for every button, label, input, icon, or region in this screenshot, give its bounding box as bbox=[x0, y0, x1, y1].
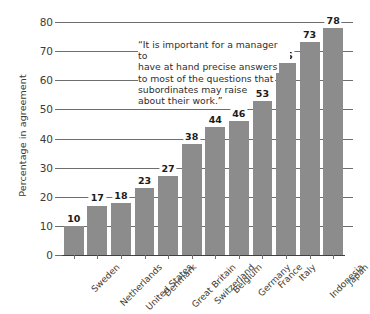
bar[interactable] bbox=[323, 28, 343, 255]
bar[interactable] bbox=[229, 121, 249, 255]
bar-value-label: 46 bbox=[230, 108, 247, 119]
y-axis-tick-label: 10 bbox=[40, 220, 53, 232]
quote-line: “It is important for a manager to bbox=[138, 39, 290, 61]
x-axis-tick-label: Japan bbox=[346, 262, 370, 287]
bar[interactable] bbox=[205, 127, 225, 255]
quote-line: have at hand precise answers bbox=[138, 61, 279, 72]
y-axis-tick-label: 40 bbox=[40, 133, 53, 145]
y-axis-tick-mark bbox=[55, 139, 62, 140]
y-axis-title: Percentage in agreement bbox=[17, 46, 28, 226]
y-axis-tick-mark-right bbox=[345, 22, 353, 23]
x-axis-tick-mark bbox=[97, 255, 98, 259]
bar[interactable] bbox=[135, 188, 155, 255]
bar-value-label: 23 bbox=[136, 175, 153, 186]
y-axis-tick-mark-right bbox=[345, 109, 353, 110]
y-axis-tick-mark-right bbox=[345, 197, 353, 198]
x-axis-tick-mark bbox=[310, 255, 311, 259]
y-axis-tick-label: 60 bbox=[40, 74, 53, 86]
bar-value-label: 44 bbox=[207, 114, 224, 125]
y-axis-tick-label: 50 bbox=[40, 103, 53, 115]
y-axis-tick-mark-right bbox=[345, 51, 353, 52]
y-axis-tick-mark bbox=[55, 22, 62, 23]
x-axis-tick-mark bbox=[333, 255, 334, 259]
x-axis-tick-label: Sweden bbox=[89, 262, 121, 294]
x-axis-tick-mark bbox=[121, 255, 122, 259]
plot-area: 01020304050607080 1017182327384446536673… bbox=[62, 22, 345, 255]
bar-group: 73 bbox=[298, 22, 322, 255]
bar[interactable] bbox=[87, 206, 107, 256]
y-axis-tick-mark bbox=[55, 226, 62, 227]
y-axis-tick-mark bbox=[55, 80, 62, 81]
bar-value-label: 17 bbox=[89, 192, 106, 203]
quote-annotation: “It is important for a manager tohave at… bbox=[138, 39, 290, 106]
x-axis-tick-mark bbox=[215, 255, 216, 259]
bar-value-label: 73 bbox=[301, 29, 318, 40]
bar[interactable] bbox=[158, 176, 178, 255]
y-axis-tick-mark bbox=[55, 168, 62, 169]
bar-group: 17 bbox=[86, 22, 110, 255]
bar-value-label: 10 bbox=[65, 213, 82, 224]
bar[interactable] bbox=[300, 42, 320, 255]
x-axis-tick-mark bbox=[145, 255, 146, 259]
y-axis-tick-label: 80 bbox=[40, 16, 53, 28]
y-axis-tick-label: 30 bbox=[40, 162, 53, 174]
y-axis-tick-mark bbox=[55, 109, 62, 110]
y-axis-tick-mark bbox=[55, 255, 62, 256]
bar-group: 18 bbox=[109, 22, 133, 255]
y-axis-tick-label: 70 bbox=[40, 45, 53, 57]
quote-line: subordinates may raise bbox=[138, 84, 249, 95]
y-axis-tick-mark-right bbox=[345, 80, 353, 81]
y-axis-tick-mark-right bbox=[345, 226, 353, 227]
bar-group: 78 bbox=[321, 22, 345, 255]
bar[interactable] bbox=[64, 226, 84, 255]
y-axis-tick-label: 20 bbox=[40, 191, 53, 203]
x-axis-tick-mark bbox=[192, 255, 193, 259]
bar-value-label: 27 bbox=[159, 163, 176, 174]
x-axis-tick-mark bbox=[168, 255, 169, 259]
y-axis-tick-mark bbox=[55, 197, 62, 198]
x-axis-tick-mark bbox=[286, 255, 287, 259]
quote-line: about their work.” bbox=[138, 95, 225, 106]
bar[interactable] bbox=[182, 144, 202, 255]
y-axis-tick-mark-right bbox=[345, 168, 353, 169]
x-axis-tick-mark bbox=[262, 255, 263, 259]
y-axis-tick-label: 0 bbox=[46, 249, 53, 261]
y-axis-tick-mark-right bbox=[345, 139, 353, 140]
x-axis-tick-mark bbox=[74, 255, 75, 259]
bar-group: 10 bbox=[62, 22, 86, 255]
x-axis-baseline bbox=[62, 255, 345, 256]
bar-value-label: 38 bbox=[183, 131, 200, 142]
bar[interactable] bbox=[253, 101, 273, 255]
bar[interactable] bbox=[111, 203, 131, 255]
x-axis-tick-mark bbox=[239, 255, 240, 259]
quote-line: to most of the questions that bbox=[138, 73, 275, 84]
y-axis-tick-mark bbox=[55, 51, 62, 52]
bar-value-label: 18 bbox=[112, 190, 129, 201]
bar-value-label: 78 bbox=[325, 15, 342, 26]
